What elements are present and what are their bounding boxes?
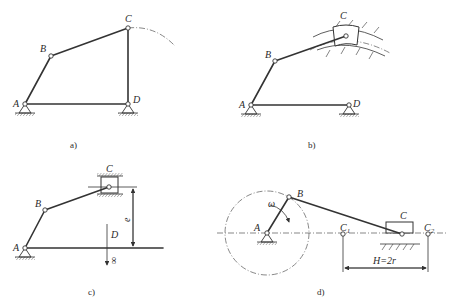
slider-block <box>386 222 413 233</box>
label-d: D <box>110 229 119 240</box>
caption-d: d) <box>317 287 325 297</box>
label-stroke: H=2r <box>372 255 396 266</box>
caption-c: c) <box>88 287 95 297</box>
label-a: A <box>12 242 20 253</box>
label-c: C <box>106 163 113 174</box>
link-ab <box>25 210 45 248</box>
panel-a: A B C D a) <box>12 13 175 150</box>
link-ab <box>25 56 51 104</box>
trajectory-arc-c <box>128 28 175 46</box>
label-b: B <box>297 188 303 199</box>
caption-a: a) <box>70 140 77 150</box>
joint-b <box>49 54 53 58</box>
mechanism-figure: A B C D a) <box>0 0 454 304</box>
joint-a <box>265 231 269 235</box>
label-c: C <box>400 210 407 221</box>
joint-a <box>249 103 253 107</box>
panel-b: A B C D b) <box>238 10 390 150</box>
label-a: A <box>253 222 261 233</box>
link-bc <box>51 28 128 56</box>
caption-b: b) <box>308 140 316 150</box>
joint-c <box>126 26 130 30</box>
label-d: D <box>132 94 141 105</box>
label-b: B <box>265 49 271 60</box>
joint-b <box>273 59 277 63</box>
label-a: A <box>12 98 20 109</box>
label-b: B <box>40 43 46 54</box>
label-infinity: ∞ <box>109 257 120 264</box>
label-d: D <box>352 98 361 109</box>
joint-b <box>287 195 291 199</box>
label-a: A <box>238 99 246 110</box>
label-e: e <box>121 217 132 222</box>
joint-d <box>347 103 351 107</box>
joint-c <box>400 232 404 236</box>
joint-b <box>43 208 47 212</box>
joint-d <box>126 102 130 106</box>
label-c: C <box>340 10 347 21</box>
joint-a <box>23 246 27 250</box>
label-b: B <box>35 198 41 209</box>
link-ab <box>251 61 275 105</box>
panel-c: e D ∞ A B C c) <box>12 163 163 297</box>
label-c: C <box>125 13 132 24</box>
joint-c <box>344 34 348 38</box>
slider-guide-hatching <box>382 244 414 250</box>
link-bc <box>275 36 346 61</box>
panel-d: ω H=2r A B C C1 C2 d) <box>217 188 447 297</box>
lower-guide-hatch <box>97 194 123 197</box>
label-omega: ω <box>268 198 275 209</box>
link-bc <box>45 187 109 210</box>
joint-a <box>23 102 27 106</box>
joint-c <box>107 185 111 189</box>
